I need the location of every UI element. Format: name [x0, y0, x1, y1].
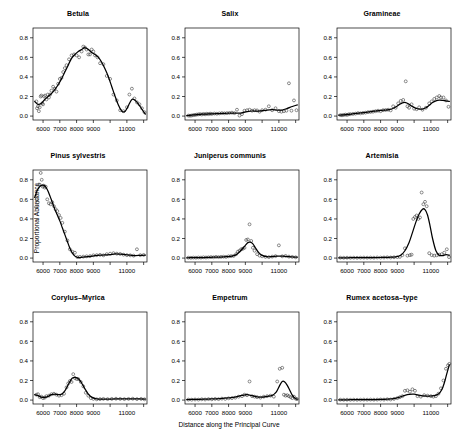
x-tick-label: 6000: [188, 125, 202, 132]
data-point: [73, 251, 76, 254]
x-tick-label: 9000: [238, 409, 252, 416]
x-tick-label: 9000: [390, 125, 404, 132]
x-tick-label: 7000: [357, 409, 371, 416]
y-tick-label: 0.8: [323, 176, 332, 183]
panel-betula: Betula0.00.20.40.60.86000700080009000110…: [2, 10, 154, 152]
panel-pinus-sylvestris: Pinus sylvestris0.00.20.40.60.8600070008…: [2, 152, 154, 294]
data-point: [412, 217, 415, 220]
data-point: [414, 389, 417, 392]
data-point: [402, 98, 405, 101]
x-tick-label: 8000: [222, 125, 236, 132]
x-tick-label: 6000: [340, 409, 354, 416]
fitted-curve: [339, 365, 450, 400]
data-point: [277, 244, 280, 247]
data-point: [52, 85, 55, 88]
y-tick-label: 0.6: [19, 338, 28, 345]
data-point: [295, 109, 298, 112]
fitted-curve: [35, 48, 146, 115]
y-tick-label: 0.0: [171, 112, 180, 119]
data-point: [447, 105, 450, 108]
plot-frame: [337, 170, 451, 262]
data-point: [248, 380, 251, 383]
data-points: [187, 223, 297, 259]
data-point: [404, 80, 407, 83]
panel-title: Artemisia: [306, 152, 458, 159]
panel-gramineae: Gramineae0.00.20.40.60.86000700080009000…: [306, 10, 458, 152]
x-tick-label: 7000: [53, 125, 67, 132]
data-point: [276, 380, 279, 383]
data-point: [428, 252, 431, 255]
x-tick-label: 11000: [271, 267, 288, 274]
y-tick-label: 0.4: [19, 73, 28, 80]
x-tick-label: 11000: [423, 267, 440, 274]
x-tick-label: 6000: [340, 267, 354, 274]
x-tick-label: 9000: [238, 267, 252, 274]
data-point: [408, 390, 411, 393]
data-point: [425, 205, 428, 208]
data-point: [35, 198, 38, 201]
plot-area: 0.00.20.40.60.8600070008000900011000: [306, 294, 458, 436]
data-point: [236, 108, 239, 111]
y-tick-label: 0.2: [171, 377, 180, 384]
y-tick-label: 0.2: [323, 235, 332, 242]
y-tick-label: 0.0: [171, 396, 180, 403]
data-point: [90, 48, 93, 51]
plot-area: 0.00.20.40.60.8600070008000900011000: [2, 294, 154, 436]
x-tick-label: 9000: [86, 125, 100, 132]
x-tick-label: 8000: [70, 267, 84, 274]
data-point: [130, 87, 133, 90]
y-tick-label: 0.6: [171, 54, 180, 61]
y-tick-label: 0.4: [19, 357, 28, 364]
plot-frame: [33, 170, 147, 262]
plot-area: 0.00.20.40.60.8600070008000900011000: [154, 10, 306, 152]
data-point: [410, 253, 413, 256]
x-tick-label: 6000: [188, 267, 202, 274]
data-point: [445, 248, 448, 251]
y-tick-label: 0.0: [323, 254, 332, 261]
y-tick-label: 0.8: [19, 318, 28, 325]
y-tick-label: 0.0: [19, 112, 28, 119]
x-tick-label: 9000: [390, 267, 404, 274]
y-tick-label: 0.6: [171, 196, 180, 203]
data-point: [287, 82, 290, 85]
y-tick-label: 0.2: [19, 93, 28, 100]
x-tick-label: 8000: [222, 409, 236, 416]
data-point: [443, 251, 446, 254]
x-tick-label: 9000: [390, 409, 404, 416]
y-tick-label: 0.4: [323, 215, 332, 222]
x-tick-label: 7000: [53, 409, 67, 416]
y-tick-label: 0.2: [19, 377, 28, 384]
data-point: [448, 256, 451, 259]
y-tick-label: 0.8: [323, 318, 332, 325]
data-point: [72, 373, 75, 376]
data-point: [55, 90, 58, 93]
x-tick-label: 11000: [423, 125, 440, 132]
panel-salix: Salix0.00.20.40.60.860007000800090001100…: [154, 10, 306, 152]
x-tick-label: 6000: [188, 409, 202, 416]
y-tick-label: 0.4: [323, 73, 332, 80]
x-tick-label: 8000: [70, 409, 84, 416]
y-tick-label: 0.8: [171, 318, 180, 325]
fitted-curve: [187, 242, 298, 258]
x-tick-label: 6000: [36, 267, 50, 274]
plot-frame: [185, 28, 299, 120]
plot-frame: [337, 28, 451, 120]
y-tick-label: 0.6: [19, 54, 28, 61]
x-tick-label: 6000: [36, 409, 50, 416]
y-tick-label: 0.6: [171, 338, 180, 345]
y-tick-label: 0.4: [171, 215, 180, 222]
data-point: [40, 178, 43, 181]
x-tick-label: 7000: [205, 125, 219, 132]
y-tick-label: 0.8: [171, 176, 180, 183]
x-tick-label: 8000: [374, 125, 388, 132]
plot-frame: [185, 312, 299, 404]
fitted-curve: [339, 100, 450, 115]
x-tick-label: 7000: [357, 125, 371, 132]
panel-artemisia: Artemisia0.00.20.40.60.86000700080009000…: [306, 152, 458, 294]
x-tick-label: 9000: [238, 125, 252, 132]
x-tick-label: 7000: [53, 267, 67, 274]
data-point: [39, 171, 42, 174]
data-point: [251, 246, 254, 249]
fitted-curve: [187, 381, 298, 399]
panel-juniperus-communis: Juniperus communis0.00.20.40.60.86000700…: [154, 152, 306, 294]
